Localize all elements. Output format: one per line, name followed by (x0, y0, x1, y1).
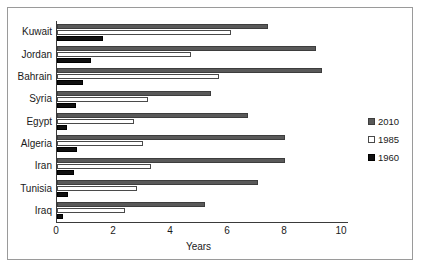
chart-legend: 201019851960 (368, 112, 416, 166)
x-tick-label: 4 (167, 225, 173, 236)
category-group: Jordan (57, 46, 341, 63)
bar-bahrain-1985 (57, 74, 219, 79)
bar-egypt-2010 (57, 113, 248, 118)
bar-kuwait-1985 (57, 30, 231, 35)
bar-jordan-1960 (57, 58, 91, 63)
bar-kuwait-2010 (57, 24, 268, 29)
category-label: Algeria (21, 139, 52, 149)
plot-area: KuwaitJordanBahrainSyriaEgyptAlgeriaIran… (56, 21, 341, 222)
bar-tunisia-1960 (57, 192, 68, 197)
category-label: Egypt (26, 117, 52, 127)
bar-jordan-1985 (57, 52, 191, 57)
legend-label: 1960 (378, 152, 399, 163)
legend-item-1960: 1960 (368, 148, 416, 166)
x-axis-line (56, 222, 348, 223)
legend-item-2010: 2010 (368, 112, 416, 130)
bar-syria-2010 (57, 91, 211, 96)
bar-syria-1985 (57, 97, 148, 102)
legend-item-1985: 1985 (368, 130, 416, 148)
bar-bahrain-2010 (57, 68, 322, 73)
bar-algeria-1960 (57, 147, 77, 152)
x-tick-label: 10 (335, 225, 346, 236)
x-tick-label: 2 (110, 225, 116, 236)
category-label: Jordan (21, 50, 52, 60)
category-label: Tunisia (20, 184, 52, 194)
bar-algeria-1985 (57, 141, 143, 146)
category-group: Kuwait (57, 24, 341, 41)
category-label: Iraq (35, 206, 52, 216)
bar-tunisia-2010 (57, 180, 258, 185)
legend-label: 1985 (378, 134, 399, 145)
legend-swatch-icon (368, 136, 375, 143)
category-label: Kuwait (22, 27, 52, 37)
legend-swatch-icon (368, 118, 375, 125)
bar-algeria-2010 (57, 135, 285, 140)
legend-label: 2010 (378, 116, 399, 127)
x-tick-label: 6 (224, 225, 230, 236)
bar-iraq-1960 (57, 214, 63, 219)
chart-frame: KuwaitJordanBahrainSyriaEgyptAlgeriaIran… (7, 7, 413, 260)
legend-swatch-icon (368, 154, 375, 161)
category-group: Algeria (57, 135, 341, 152)
category-group: Iran (57, 158, 341, 175)
bar-iraq-2010 (57, 202, 205, 207)
bar-iran-1985 (57, 164, 151, 169)
bar-iraq-1985 (57, 208, 125, 213)
bar-egypt-1960 (57, 125, 67, 130)
bar-jordan-2010 (57, 46, 316, 51)
category-group: Iraq (57, 202, 341, 219)
bar-bahrain-1960 (57, 80, 83, 85)
x-tick-label: 8 (281, 225, 287, 236)
bar-egypt-1985 (57, 119, 134, 124)
category-group: Tunisia (57, 180, 341, 197)
x-axis-label: Years (56, 241, 341, 252)
bar-kuwait-1960 (57, 36, 103, 41)
category-label: Iran (35, 161, 52, 171)
bar-iran-1960 (57, 170, 74, 175)
bar-syria-1960 (57, 103, 76, 108)
category-group: Egypt (57, 113, 341, 130)
category-group: Bahrain (57, 68, 341, 85)
category-label: Syria (29, 94, 52, 104)
bar-iran-2010 (57, 158, 285, 163)
x-tick-label: 0 (53, 225, 59, 236)
category-label: Bahrain (18, 72, 52, 82)
category-group: Syria (57, 91, 341, 108)
bar-tunisia-1985 (57, 186, 137, 191)
